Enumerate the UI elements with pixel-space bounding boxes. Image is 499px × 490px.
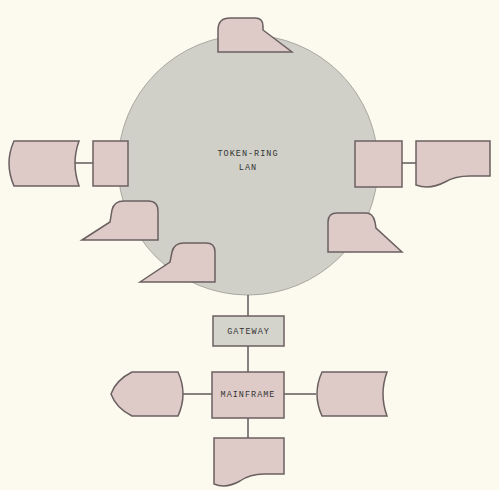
workstation-left[interactable] (93, 141, 128, 186)
ring-label-line2: LAN (239, 163, 257, 173)
storage-right[interactable] (317, 372, 387, 416)
terminal-top[interactable] (218, 18, 292, 52)
mainframe-label: MAINFRAME (221, 390, 276, 400)
document-right[interactable] (416, 141, 490, 187)
terminal-right[interactable] (328, 213, 402, 252)
network-diagram: GATEWAY MAINFRAME TOKEN-RING LAN (0, 0, 499, 490)
gateway-label: GATEWAY (227, 327, 270, 337)
ring-label-line1: TOKEN-RING (217, 149, 278, 159)
document-bottom[interactable] (214, 438, 284, 486)
workstation-right[interactable] (355, 141, 402, 187)
terminal-left-upper[interactable] (82, 201, 158, 240)
storage-left[interactable] (9, 141, 79, 186)
display-left[interactable] (111, 372, 183, 416)
